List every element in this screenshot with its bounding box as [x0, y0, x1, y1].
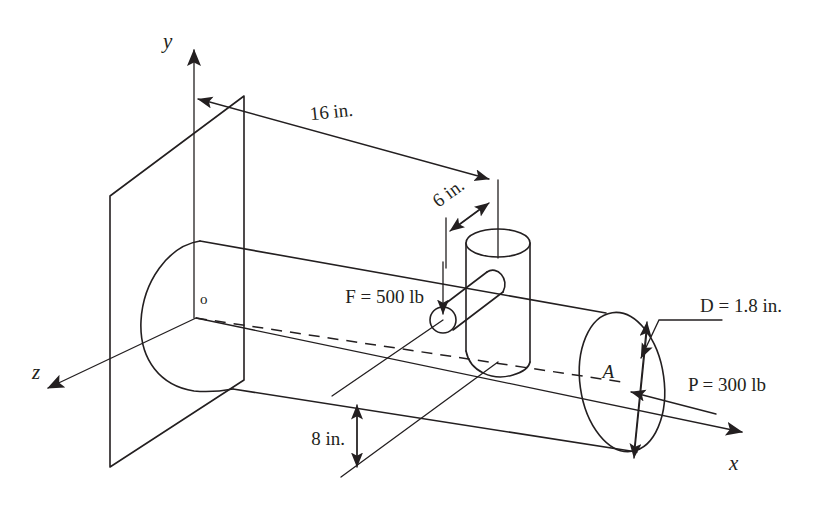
axis-label-z: z [31, 360, 40, 384]
figure-canvas: y x z o 16 in. 6 in. [0, 0, 816, 518]
point-A-label: A [600, 361, 614, 382]
force-P-label: P = 300 lb [688, 374, 766, 395]
force-F-label: F = 500 lb [345, 286, 424, 307]
dimension-D-label: D = 1.8 in. [700, 295, 782, 316]
lever-handle [430, 270, 505, 333]
shaft-centerline [196, 318, 622, 382]
axis-label-x: x [728, 451, 739, 475]
origin-label: o [200, 291, 208, 307]
dimension-16in-label: 16 in. [309, 99, 354, 124]
mechanics-diagram: y x z o 16 in. 6 in. [0, 0, 816, 518]
point-A: A [600, 361, 614, 382]
axis-z [48, 318, 196, 388]
dimension-6in-label: 6 in. [428, 174, 468, 211]
dimension-16in: 16 in. [198, 99, 489, 179]
axis-x [196, 318, 742, 432]
dimension-8in-label: 8 in. [311, 428, 345, 449]
force-P: P = 300 lb [631, 374, 766, 414]
vertical-boss [466, 180, 530, 377]
axis-label-y: y [161, 29, 173, 53]
wall-plane [110, 96, 244, 467]
dimension-8in: 8 in. [311, 320, 498, 477]
